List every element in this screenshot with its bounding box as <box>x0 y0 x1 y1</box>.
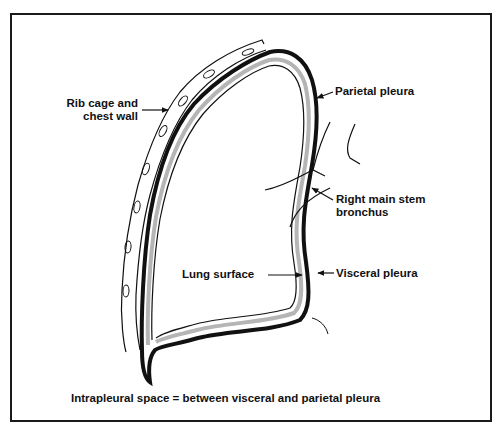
bronchus-label: Right main stem bronchus <box>336 193 425 219</box>
rib-cage-label-line2: chest wall <box>30 110 138 123</box>
rib-cage-label: Rib cage and chest wall <box>30 97 138 123</box>
bronchus-label-line1: Right main stem <box>336 193 425 206</box>
parietal-pleura-arrow <box>317 92 333 98</box>
bronchus-arrow <box>312 188 333 200</box>
visceral-pleura-line <box>152 65 304 340</box>
visceral-pleura-label: Visceral pleura <box>336 267 418 280</box>
parietal-pleura-label: Parietal pleura <box>335 85 414 98</box>
bronchus-label-line2: bronchus <box>336 206 425 219</box>
rib-cage-label-line1: Rib cage and <box>30 97 138 110</box>
lung-surface-label: Lung surface <box>182 268 254 281</box>
caption: Intrapleural space = between visceral an… <box>71 392 380 405</box>
intrapleural-space <box>148 59 309 345</box>
